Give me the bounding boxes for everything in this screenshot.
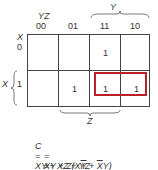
col-header-10: 10 xyxy=(130,22,140,31)
cell-x0-yz11: 1 xyxy=(90,35,121,71)
row-header-0: 0 xyxy=(17,43,22,52)
equation-equals: = xyxy=(44,161,49,170)
group-highlight-xy xyxy=(94,72,147,96)
karnaugh-map-grid: 1 1 1 1 xyxy=(27,34,150,107)
cell-x0-yz00 xyxy=(28,35,59,71)
col-header-11: 11 xyxy=(100,22,109,31)
equation-part: Y) xyxy=(103,161,112,170)
column-variables-label: YZ xyxy=(38,12,50,21)
cell-x1-yz00 xyxy=(28,71,59,107)
cell-x0-yz01 xyxy=(59,35,90,71)
row-variable-label: X xyxy=(17,33,23,42)
cell-x0-yz10 xyxy=(121,35,152,71)
z-brace-label: Z xyxy=(87,117,93,126)
equation-line-3: = XY + Z(X ⊕ Y) xyxy=(39,151,102,170)
cell-x1-yz01: 1 xyxy=(59,71,90,107)
col-header-00: 00 xyxy=(36,22,46,31)
x-brace-label: X xyxy=(2,80,8,89)
y-brace-icon xyxy=(90,11,150,19)
row-header-1: 1 xyxy=(17,80,22,89)
col-header-01: 01 xyxy=(68,22,78,31)
